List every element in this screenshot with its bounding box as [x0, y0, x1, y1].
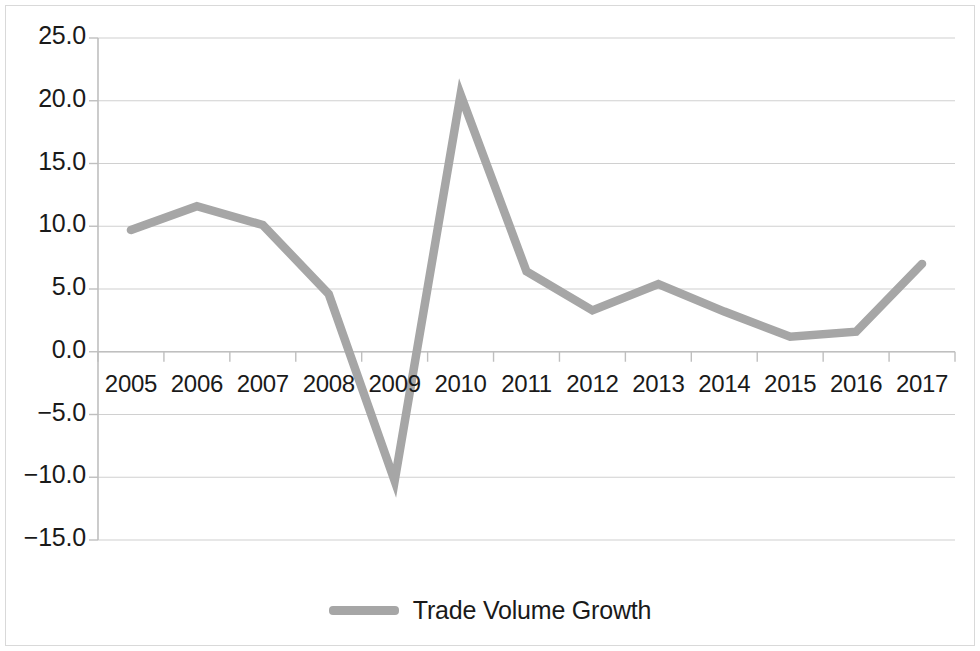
data-line-trade-volume-growth — [131, 94, 922, 481]
chart-container: 25.020.015.010.05.00.0−5.0−10.0−15.0 200… — [0, 0, 980, 651]
y-axis-tick-label: 25.0 — [0, 21, 86, 50]
x-axis-tick-label: 2012 — [559, 370, 625, 398]
legend-swatch-trade-volume-growth — [329, 606, 399, 615]
x-axis-tick-label: 2006 — [164, 370, 230, 398]
x-axis-tick-label: 2017 — [889, 370, 955, 398]
y-axis-tick-label: 5.0 — [0, 272, 86, 301]
y-axis-tick-label: 20.0 — [0, 84, 86, 113]
data-series-group — [131, 94, 922, 481]
x-axis-tick-label: 2016 — [823, 370, 889, 398]
x-axis-tick-label: 2009 — [362, 370, 428, 398]
x-axis-tick-label: 2008 — [296, 370, 362, 398]
y-axis-tick-label: −5.0 — [0, 398, 86, 427]
x-axis-tick-label: 2014 — [691, 370, 757, 398]
legend-label-trade-volume-growth: Trade Volume Growth — [413, 596, 651, 625]
line-chart-plot — [0, 0, 980, 651]
x-axis-tick-label: 2005 — [98, 370, 164, 398]
x-axis-tick-label: 2007 — [230, 370, 296, 398]
x-axis-tick-label: 2011 — [494, 370, 560, 398]
x-axis-tick-label: 2015 — [757, 370, 823, 398]
x-axis-tick-label: 2013 — [625, 370, 691, 398]
gridlines — [98, 38, 955, 540]
y-axis-tick-label: −15.0 — [0, 523, 86, 552]
x-axis-tick-label: 2010 — [428, 370, 494, 398]
y-axis-tick-label: 0.0 — [0, 335, 86, 364]
y-axis-tick-label: 15.0 — [0, 147, 86, 176]
chart-legend: Trade Volume Growth — [0, 596, 980, 625]
y-axis-tick-label: 10.0 — [0, 209, 86, 238]
y-axis-tick-label: −10.0 — [0, 460, 86, 489]
